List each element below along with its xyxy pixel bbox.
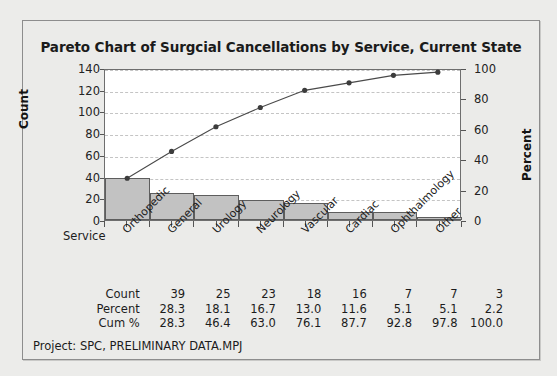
y-axis-label-count: Count [17,89,31,129]
table-cell: 100.0 [458,316,503,331]
y-axis-label-percent: Percent [520,129,534,181]
cumulative-marker-general [169,149,174,154]
table-cell: 7 [412,287,457,302]
y-tick-label-60: 60 [64,149,100,163]
y2-tick-mark [461,99,466,100]
table-cell: 5.1 [412,302,457,317]
project-footer-note: Project: SPC, PRELIMINARY DATA.MPJ [33,339,243,353]
y2-tick-mark [461,69,466,70]
data-table: Count3925231816773Percent28.318.116.713.… [53,287,503,331]
cumulative-marker-vascular [302,88,307,93]
table-cell: 87.7 [321,316,366,331]
table-row-label: Count [53,287,140,302]
y-axis-right-ticks: 020406080100 [466,69,508,221]
table-cell: 16 [321,287,366,302]
y-tick-label-20: 20 [64,192,100,206]
y2-tick-label-60: 60 [466,123,514,137]
table-row: Cum %28.346.463.076.187.792.897.8100.0 [53,316,503,331]
cumulative-marker-cardiac [346,80,351,85]
cumulative-marker-other [435,70,440,75]
cumulative-marker-urology [213,124,218,129]
y-tick-label-80: 80 [64,127,100,141]
table-cell: 3 [458,287,503,302]
table-cell: 28.3 [140,302,185,317]
table-row: Percent28.318.116.713.011.65.15.12.2 [53,302,503,317]
cumulative-line [127,72,438,178]
graph-frame: Pareto Chart of Surgcial Cancellations b… [22,20,540,360]
y-tick-label-100: 100 [64,105,100,119]
table-cell: 11.6 [321,302,366,317]
y-axis-left-ticks: 020406080100120140 [59,69,100,221]
y2-tick-label-100: 100 [466,62,514,76]
x-axis-label-service: Service [63,229,106,243]
table-cell: 63.0 [231,316,276,331]
y2-tick-label-40: 40 [466,153,514,167]
cumulative-marker-neurology [258,105,263,110]
y-tick-label-140: 140 [64,62,100,76]
y2-tick-label-20: 20 [466,184,514,198]
x-tick-mark [461,221,462,227]
table-cell: 46.4 [185,316,230,331]
y-tick-label-40: 40 [64,171,100,185]
table-cell: 5.1 [367,302,412,317]
y2-tick-label-80: 80 [466,92,514,106]
table-cell: 7 [367,287,412,302]
y2-tick-label-0: 0 [466,214,514,228]
y-tick-label-0: 0 [64,214,100,228]
y2-tick-mark [461,160,466,161]
y2-tick-mark [461,191,466,192]
table-cell: 18 [276,287,321,302]
table-cell: 76.1 [276,316,321,331]
cumulative-marker-orthopedic [125,176,130,181]
table-cell: 23 [231,287,276,302]
table-cell: 97.8 [412,316,457,331]
table-cell: 13.0 [276,302,321,317]
table-row-label: Cum % [53,316,140,331]
table-row-label: Percent [53,302,140,317]
y-tick-label-120: 120 [64,84,100,98]
table-cell: 92.8 [367,316,412,331]
table-cell: 18.1 [185,302,230,317]
screenshot-canvas: Pareto Chart of Surgcial Cancellations b… [0,0,557,376]
table-row: Count3925231816773 [53,287,503,302]
page-title: Pareto Chart of Surgcial Cancellations b… [23,39,539,55]
table-cell: 2.2 [458,302,503,317]
y2-tick-mark [461,130,466,131]
table-cell: 39 [140,287,185,302]
cumulative-marker-ophthalmology [391,73,396,78]
table-cell: 16.7 [231,302,276,317]
x-axis-category-labels: OrthopedicGeneralUrologyNeurologyVascula… [104,227,461,287]
table-cell: 28.3 [140,316,185,331]
table-cell: 25 [185,287,230,302]
